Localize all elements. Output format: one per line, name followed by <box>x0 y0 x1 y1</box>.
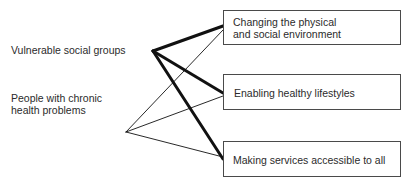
action-label-lifestyles: Enabling healthy lifestyles <box>234 87 355 99</box>
group-label-chronic-line1: People with chronic <box>11 92 102 104</box>
action-box-environment: Changing the physical and social environ… <box>223 10 401 45</box>
thick-line-vulnerable-environment <box>153 26 223 51</box>
thick-line-vulnerable-lifestyles <box>153 51 223 93</box>
action-label-environment-line2: and social environment <box>233 28 341 40</box>
group-label-vulnerable: Vulnerable social groups <box>11 44 126 56</box>
action-label-services: Making services accessible to all <box>233 154 385 166</box>
thin-line-chronic-lifestyles <box>126 96 223 132</box>
action-label-environment-line1: Changing the physical <box>233 16 336 28</box>
group-label-chronic-line2: health problems <box>11 104 86 116</box>
action-box-services: Making services accessible to all <box>223 141 401 177</box>
thin-line-chronic-environment <box>126 30 223 132</box>
action-box-lifestyles: Enabling healthy lifestyles <box>223 74 401 110</box>
